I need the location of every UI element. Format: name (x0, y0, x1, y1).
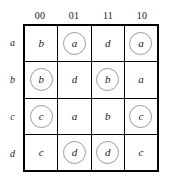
map-cell: b (92, 99, 125, 134)
map-cell-label: c (138, 147, 143, 158)
map-cell-label: a (138, 74, 144, 85)
map-cell-label: a (138, 38, 144, 49)
map-cell: a (58, 99, 91, 134)
map-cell: a (58, 26, 91, 61)
map-cell-label: d (72, 74, 78, 85)
table-row: c a b c (25, 99, 157, 135)
row-label-0: a (4, 24, 21, 61)
map-cell-label: b (105, 111, 111, 122)
map-cell-label: b (38, 38, 44, 49)
column-header-row: 00 01 11 10 (23, 8, 159, 23)
map-cell: b (92, 62, 125, 97)
map-cell: c (25, 99, 58, 134)
map-cell: d (58, 135, 91, 170)
table-row: b d b a (25, 62, 157, 98)
column-header-0: 00 (23, 8, 57, 23)
map-cell: d (92, 135, 125, 170)
map-cell-label: c (39, 111, 44, 122)
map-cell-label: c (39, 147, 44, 158)
map-cell-label: d (72, 147, 78, 158)
map-cell: c (25, 135, 58, 170)
map-cell: c (125, 99, 157, 134)
map-cell: d (58, 62, 91, 97)
map-cell-label: c (138, 111, 143, 122)
column-header-1: 01 (57, 8, 91, 23)
map-cell: b (25, 26, 58, 61)
map-cell-label: a (72, 38, 78, 49)
map-cell-label: d (105, 147, 111, 158)
row-label-column: a b c d (4, 24, 21, 172)
table-row: b a d a (25, 26, 157, 62)
map-cell-label: b (105, 74, 111, 85)
map-cell-label: d (105, 38, 111, 49)
row-label-3: d (4, 135, 21, 172)
map-grid: b a d a b d (23, 24, 159, 172)
table-row: c d d c (25, 135, 157, 170)
map-cell: a (125, 26, 157, 61)
row-label-2: c (4, 98, 21, 135)
map-cell: c (125, 135, 157, 170)
column-header-2: 11 (91, 8, 125, 23)
column-header-3: 10 (125, 8, 159, 23)
map-cell-label: b (38, 74, 44, 85)
row-label-1: b (4, 61, 21, 98)
map-cell-label: a (72, 111, 78, 122)
map-cell: a (125, 62, 157, 97)
karnaugh-map-figure: 00 01 11 10 a b c d b a d a (0, 0, 170, 183)
map-cell: b (25, 62, 58, 97)
map-cell: d (92, 26, 125, 61)
